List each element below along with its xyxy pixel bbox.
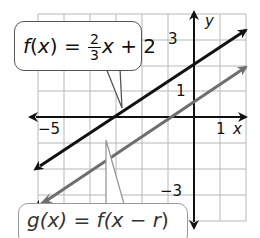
y-axis-label: y — [205, 14, 214, 29]
slope-numerator: 2 — [88, 32, 101, 48]
f-equation: f(x) = 23x + 2 — [23, 32, 156, 63]
f-intercept: 2 — [143, 34, 156, 58]
g-equation: g(x) = f(x − r) — [27, 208, 169, 232]
g-equation-prefix: g(x) = f(x − — [27, 208, 153, 232]
f-var: x — [102, 34, 114, 58]
plus-sign: + — [120, 34, 137, 58]
y-tick-label-1: 1 — [176, 84, 186, 99]
x-tick-label-1: 1 — [216, 122, 226, 137]
f-function-name: f — [23, 34, 30, 58]
y-tick-label-3: 3 — [168, 32, 178, 47]
equals-sign: = — [64, 34, 81, 58]
slope-fraction: 23 — [88, 32, 101, 63]
g-equation-callout: g(x) = f(x − r) — [18, 203, 188, 238]
slope-denominator: 3 — [88, 48, 101, 63]
g-equation-suffix: ) — [161, 208, 169, 232]
x-tick-label-neg5: −5 — [38, 122, 60, 137]
f-arg: x — [38, 34, 50, 58]
g-shift-param: r — [153, 208, 161, 232]
x-axis-label: x — [233, 122, 242, 137]
y-tick-label-neg3: −3 — [160, 184, 182, 199]
f-equation-callout: f(x) = 23x + 2 — [14, 21, 142, 71]
